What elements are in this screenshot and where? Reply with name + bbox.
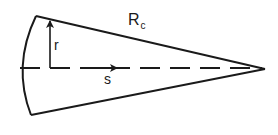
- axial-coordinate-label: s: [104, 72, 111, 86]
- cone-diagram: Rc r s: [0, 0, 278, 135]
- upper-cone-edge: [36, 16, 265, 69]
- lower-cone-edge: [31, 69, 265, 115]
- cone-radius-label: Rc: [128, 12, 146, 28]
- radial-coordinate-label: r: [54, 38, 59, 52]
- cone-radius-subscript: c: [141, 20, 146, 31]
- cone-base-arc: [23, 16, 36, 115]
